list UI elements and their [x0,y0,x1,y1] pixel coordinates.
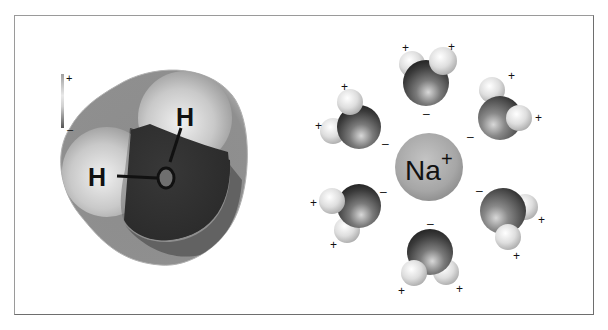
oxygen-charge-label: – [382,137,389,151]
oxygen-atom-marker [158,168,174,188]
charge-scale-bar [61,74,64,128]
hydrogen-label: H [88,163,106,191]
hydrogen-charge-label: + [398,284,405,298]
hydrogen-label: H [176,103,194,131]
oxygen-charge-label: – [427,217,434,231]
hydrated-sodium-ion: Na + + + – + + – + + – [310,40,545,298]
water-molecule-upper-left: + + – [315,80,389,151]
water-molecule-lower-right: + + – [476,184,545,263]
oxygen-charge-label: – [467,130,474,144]
hydrogen-charge-label: + [330,238,337,252]
oxygen-charge-label: – [476,184,483,198]
hydrogen-charge-label: + [508,69,515,83]
water-molecule-upper-right: + + – [467,69,542,144]
water-molecule-space-filling: H H + – [61,70,248,265]
hydrogen-charge-label: + [538,213,545,227]
sodium-ion: Na + [395,133,463,201]
water-molecule-top: + + – [399,40,457,121]
water-molecule-lower-left: + + – [310,184,387,252]
hydrogen-charge-label: + [315,119,322,133]
scale-negative-label: – [67,123,74,135]
hydrogen-charge-label: + [341,80,348,94]
scale-positive-label: + [66,72,72,84]
hydrogen-charge-label: + [513,249,520,263]
figure-canvas: H H + – Na + + + – + + – [0,0,608,330]
hydrogen-charge-label: + [402,41,409,55]
hydrogen-charge-label: + [535,111,542,125]
sodium-charge: + [441,148,453,170]
sodium-symbol: Na [405,155,441,186]
water-molecule-bottom: + + – [398,217,463,298]
oxygen-charge-label: – [380,185,387,199]
bond-line [117,176,157,178]
hydrogen-charge-label: + [456,282,463,296]
hydrogen-charge-label: + [448,40,455,54]
oxygen-charge-label: – [423,107,430,121]
hydrogen-charge-label: + [310,196,317,210]
